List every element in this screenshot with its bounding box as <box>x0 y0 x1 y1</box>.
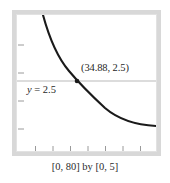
marked-point-dot <box>75 79 80 84</box>
x-axis-ticks <box>36 146 141 152</box>
line-label-value: = 2.5 <box>32 84 56 95</box>
viewing-window-caption: [0, 80] by [0, 5] <box>0 161 170 172</box>
horizontal-line-label: y = 2.5 <box>27 84 56 95</box>
graphing-calculator-figure: (34.88, 2.5) y = 2.5 [0, 80] by [0, 5] <box>0 0 170 183</box>
plot-area <box>16 14 157 152</box>
y-axis-ticks <box>18 45 24 129</box>
point-coordinate-label: (34.88, 2.5) <box>81 62 129 73</box>
